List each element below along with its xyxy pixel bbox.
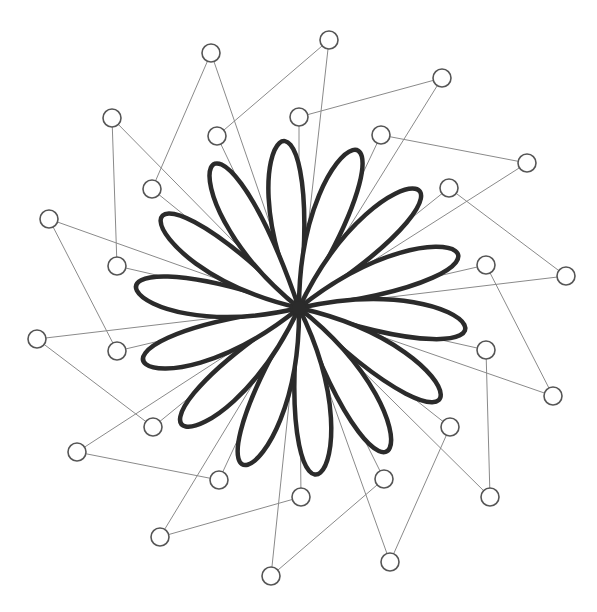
inner-control-handle[interactable] bbox=[440, 179, 458, 197]
inner-control-handle[interactable] bbox=[375, 470, 393, 488]
inner-control-handle[interactable] bbox=[108, 342, 126, 360]
outer-control-handle[interactable] bbox=[202, 44, 220, 62]
inner-control-handle[interactable] bbox=[290, 108, 308, 126]
outer-control-handle[interactable] bbox=[481, 488, 499, 506]
inner-control-handle[interactable] bbox=[372, 126, 390, 144]
outer-control-handle[interactable] bbox=[381, 553, 399, 571]
outer-control-handle[interactable] bbox=[68, 443, 86, 461]
outer-control-handle[interactable] bbox=[518, 154, 536, 172]
inner-control-handle[interactable] bbox=[477, 256, 495, 274]
inner-control-handle[interactable] bbox=[441, 418, 459, 436]
inner-control-handle[interactable] bbox=[108, 257, 126, 275]
outer-control-handle[interactable] bbox=[557, 267, 575, 285]
outer-control-handle[interactable] bbox=[262, 567, 280, 585]
inner-control-handle[interactable] bbox=[144, 418, 162, 436]
inner-control-handle[interactable] bbox=[477, 341, 495, 359]
outer-control-handle[interactable] bbox=[544, 387, 562, 405]
outer-control-handle[interactable] bbox=[433, 69, 451, 87]
inner-control-handle[interactable] bbox=[143, 180, 161, 198]
outer-control-handle[interactable] bbox=[28, 330, 46, 348]
outer-control-handle[interactable] bbox=[320, 31, 338, 49]
outer-control-handle[interactable] bbox=[40, 210, 58, 228]
outer-control-handle[interactable] bbox=[103, 109, 121, 127]
inner-control-handle[interactable] bbox=[210, 471, 228, 489]
control-point-handles bbox=[28, 31, 575, 585]
inner-control-handle[interactable] bbox=[208, 127, 226, 145]
inner-control-handle[interactable] bbox=[292, 488, 310, 506]
bezier-flower-diagram bbox=[0, 0, 597, 612]
center-point bbox=[292, 301, 306, 315]
outer-control-handle[interactable] bbox=[151, 528, 169, 546]
